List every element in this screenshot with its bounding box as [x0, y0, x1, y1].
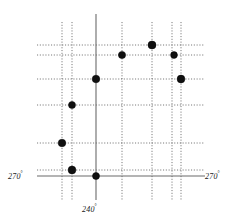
- data-point: [58, 139, 66, 147]
- data-point: [93, 173, 100, 180]
- axis-label-bottom-value: 240: [82, 205, 95, 214]
- axis-label-left: 270°: [8, 170, 23, 181]
- axis-label-right: 270°: [205, 170, 220, 181]
- degree-sign-bottom: °: [95, 203, 97, 209]
- scatter-plot-figure: 270° 270° 240°: [0, 0, 242, 221]
- data-point: [118, 51, 125, 58]
- data-point: [68, 166, 76, 174]
- data-point: [92, 75, 100, 83]
- plot-canvas: [0, 0, 242, 221]
- data-point: [171, 52, 178, 59]
- axis-label-left-value: 270: [8, 172, 21, 181]
- degree-sign-right: °: [218, 170, 220, 176]
- axis-label-bottom: 240°: [82, 203, 97, 214]
- axis-label-right-value: 270: [205, 172, 218, 181]
- data-point: [148, 41, 156, 49]
- data-points-group: [58, 41, 185, 180]
- data-point: [177, 75, 185, 83]
- data-point: [69, 102, 76, 109]
- gridlines-vertical-group: [62, 22, 181, 200]
- degree-sign-left: °: [21, 170, 23, 176]
